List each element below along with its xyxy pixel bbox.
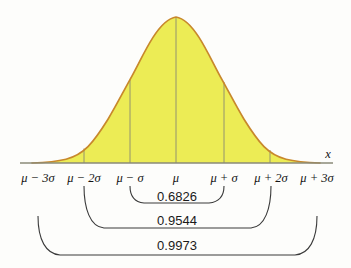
value-three-sigma: 0.9973 [157,238,197,253]
tick-label-minus-1-sigma: μ − σ [115,171,144,185]
normal-distribution-figure: x μ − 3σ μ − 2σ μ − σ μ μ + σ μ + 2σ μ +… [0,0,351,268]
value-one-sigma: 0.6826 [157,189,197,204]
tick-label-plus-2-sigma: μ + 2σ [253,171,288,185]
distribution-chart-svg: x μ − 3σ μ − 2σ μ − σ μ μ + σ μ + 2σ μ +… [0,0,351,268]
tick-label-plus-3-sigma: μ + 3σ [299,171,334,185]
tick-label-mu: μ [172,171,179,185]
value-two-sigma: 0.9544 [157,213,197,228]
tick-label-plus-1-sigma: μ + σ [209,171,238,185]
x-axis-label: x [324,147,331,161]
tick-label-minus-2-sigma: μ − 2σ [66,171,101,185]
tick-label-minus-3-sigma: μ − 3σ [20,171,55,185]
